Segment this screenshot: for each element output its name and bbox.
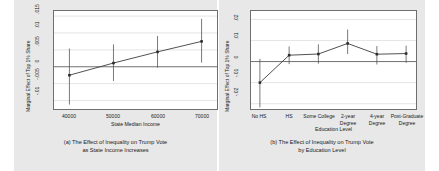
panel-b-xtick-5: Post-Graduate Degree	[387, 113, 427, 126]
panel-a-ytick-3: .005	[34, 32, 40, 50]
panel-a-ytick-0: -.01	[34, 83, 40, 99]
panel-b-caption-line2: by Education Level	[222, 146, 422, 154]
panel-b-ytick-3: .01	[233, 29, 239, 43]
panel-a-y-axis-label: Marginal Effect of Top 1% Share	[25, 40, 31, 112]
panel-b-ytick-1: -.01	[233, 66, 239, 80]
panel-b-svg	[251, 11, 416, 109]
panel-b-x-axis-label: Education Level	[250, 126, 417, 132]
figure-container: Marginal Effect of Top 1% Share -.01 -.0…	[0, 0, 439, 171]
panel-a-xtick-1: 50000	[98, 113, 128, 119]
panel-a-caption-line2: as State Income Increases	[16, 146, 215, 154]
panel-b: Marginal Effect of Top 1% Share -.02 -.0…	[219, 0, 425, 171]
panel-b-xtick-5-line1: Post-Graduate	[387, 113, 427, 120]
panel-b-ytick-2: 0	[233, 52, 239, 62]
panel-b-y-axis-label: Marginal Effect of Top 1% Share	[224, 40, 230, 112]
panel-a-plot-area	[53, 10, 218, 110]
panel-a-series-line	[69, 41, 201, 75]
panel-a-ytick-4: .01	[34, 18, 40, 32]
panel-b-plot-area	[250, 10, 417, 110]
panel-a-ytick-5: .015	[34, 1, 40, 17]
panel-a-xtick-3: 70000	[187, 113, 217, 119]
panel-b-ytick-0: -.02	[233, 85, 239, 99]
panel-a-error-bars	[69, 19, 201, 105]
panel-b-error-bars	[260, 30, 406, 108]
panel-a-caption-line1: (a) The Effect of Inequality on Trump Vo…	[16, 138, 215, 146]
panel-b-series-line	[260, 43, 406, 82]
panel-a-xtick-0: 40000	[54, 113, 84, 119]
panel-b-caption-line1: (b) The Effect of Inequality on Trump Vo…	[222, 138, 422, 146]
panel-a-svg	[54, 11, 217, 109]
panel-a-ytick-1: -.005	[34, 65, 40, 83]
panel-a-x-axis-label: State Median Income	[53, 121, 218, 127]
panel-a-gridlines	[54, 16, 217, 100]
panel-a: Marginal Effect of Top 1% Share -.01 -.0…	[14, 0, 217, 171]
panel-a-ytick-2: 0	[34, 56, 40, 66]
panel-a-xtick-2: 60000	[143, 113, 173, 119]
panel-b-ytick-4: .02	[233, 11, 239, 25]
